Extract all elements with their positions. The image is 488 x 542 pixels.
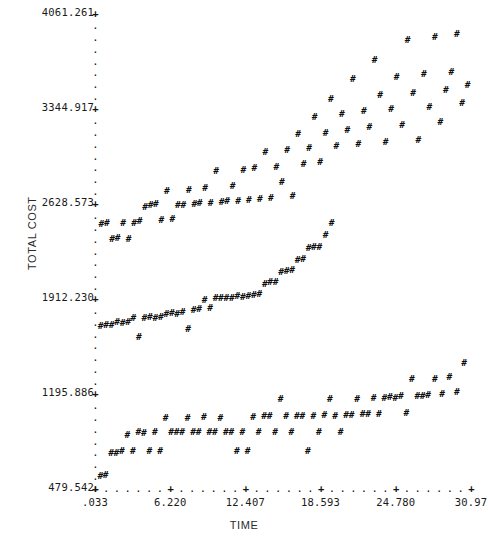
data-point: # (278, 178, 285, 185)
data-point: # (151, 428, 158, 435)
data-point: # (163, 187, 170, 194)
data-point: # (103, 219, 110, 226)
x-tick-label: 30.97 (441, 496, 488, 508)
y-tick-minor: . (91, 366, 100, 372)
data-point: # (459, 99, 466, 106)
y-tick-major: + (91, 105, 100, 111)
data-point: # (321, 411, 328, 418)
data-point: # (235, 197, 242, 204)
y-tick-minor: . (91, 283, 100, 289)
data-point: # (196, 305, 203, 312)
data-point: # (310, 412, 317, 419)
data-point: # (431, 375, 438, 382)
data-point: # (283, 412, 290, 419)
data-point: # (382, 138, 389, 145)
data-point: # (195, 428, 202, 435)
data-point: # (146, 447, 153, 454)
data-point: # (229, 182, 236, 189)
data-point: # (354, 395, 361, 402)
y-tick-minor: . (91, 307, 100, 313)
data-point: # (228, 428, 235, 435)
data-point: # (179, 308, 186, 315)
y-tick-minor: . (91, 129, 100, 135)
data-point: # (224, 197, 231, 204)
y-tick-minor: . (91, 331, 100, 337)
x-tick-minor: . (274, 485, 283, 491)
data-point: # (140, 429, 147, 436)
y-tick-minor: . (91, 141, 100, 147)
y-tick-minor: . (91, 46, 100, 52)
x-tick-major: + (467, 485, 476, 491)
y-tick-minor: . (91, 69, 100, 75)
x-tick-major: + (241, 485, 250, 491)
data-point: # (233, 447, 240, 454)
data-point: # (337, 428, 344, 435)
y-tick-minor: . (91, 378, 100, 384)
y-tick-minor: . (91, 414, 100, 420)
data-point: # (425, 391, 432, 398)
data-point: # (289, 266, 296, 273)
data-point: # (256, 290, 263, 297)
data-point: # (326, 395, 333, 402)
data-point: # (403, 409, 410, 416)
data-point: # (255, 428, 262, 435)
x-tick-minor: . (231, 485, 240, 491)
scatter-plot-figure: TOTAL COST TIME 479.542+.......1195.886+… (0, 0, 488, 542)
data-point: # (118, 447, 125, 454)
data-point: # (299, 412, 306, 419)
x-tick-minor: . (123, 485, 132, 491)
x-tick-major: + (392, 485, 401, 491)
data-point: # (162, 414, 169, 421)
y-tick-major: + (91, 200, 100, 206)
y-tick-major: + (91, 390, 100, 396)
x-tick-minor: . (252, 485, 261, 491)
data-point: # (446, 373, 453, 380)
data-point: # (348, 411, 355, 418)
y-tick-minor: . (91, 449, 100, 455)
data-point: # (393, 73, 400, 80)
x-tick-minor: . (177, 485, 186, 491)
data-point: # (129, 447, 136, 454)
data-point: # (360, 107, 367, 114)
data-point: # (397, 392, 404, 399)
data-point: # (365, 410, 372, 417)
x-tick-minor: . (220, 485, 229, 491)
data-point: # (239, 428, 246, 435)
data-point: # (408, 375, 415, 382)
x-tick-minor: . (284, 485, 293, 491)
data-point: # (202, 184, 209, 191)
x-tick-minor: . (112, 485, 121, 491)
y-tick-label: 4061.261 (20, 6, 94, 18)
x-tick-major: + (317, 485, 326, 491)
data-point: # (211, 428, 218, 435)
data-point: # (196, 199, 203, 206)
x-tick-minor: . (327, 485, 336, 491)
y-tick-label: 1195.886 (20, 386, 94, 398)
x-tick-label: 6.220 (140, 496, 200, 508)
y-tick-minor: . (91, 271, 100, 277)
x-tick-major: + (91, 485, 100, 491)
x-tick-minor: . (403, 485, 412, 491)
data-point: # (213, 167, 220, 174)
data-point: # (366, 123, 373, 130)
y-tick-major: + (91, 10, 100, 16)
y-tick-minor: . (91, 164, 100, 170)
data-point: # (158, 216, 165, 223)
data-point: # (185, 186, 192, 193)
y-tick-minor: . (91, 34, 100, 40)
data-point: # (288, 428, 295, 435)
y-tick-minor: . (91, 176, 100, 182)
data-point: # (355, 140, 362, 147)
y-tick-minor: . (91, 188, 100, 194)
y-tick-minor: . (91, 461, 100, 467)
x-tick-label: .033 (65, 496, 125, 508)
data-point: # (245, 196, 252, 203)
data-point: # (157, 447, 164, 454)
x-tick-label: 18.593 (291, 496, 351, 508)
data-point: # (130, 314, 137, 321)
data-point: # (120, 219, 127, 226)
data-point: # (284, 146, 291, 153)
data-point: # (207, 199, 214, 206)
y-tick-minor: . (91, 354, 100, 360)
data-point: # (317, 158, 324, 165)
